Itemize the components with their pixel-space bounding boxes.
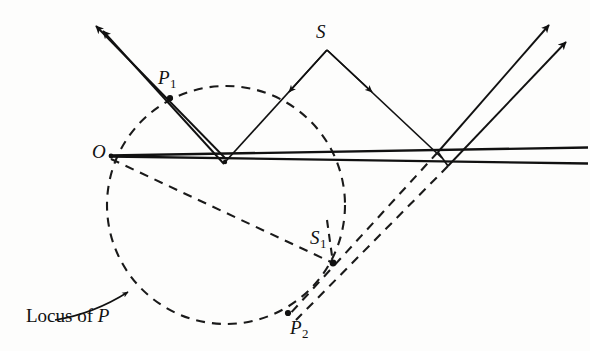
label-S: S [316, 22, 326, 41]
label-S1-main: S [310, 227, 320, 248]
virtual-ray-O-to-S1 [111, 159, 333, 263]
film-lower-surface [110, 157, 588, 164]
label-locus-of-p: Locus of P [26, 306, 109, 325]
point-P1-dot [167, 95, 173, 101]
emergent-ray-upper-right-a [438, 25, 549, 152]
label-P1-subscript: 1 [170, 76, 176, 91]
film-upper-surface [110, 148, 588, 156]
label-O-main: O [92, 141, 106, 162]
label-S-main: S [316, 21, 326, 42]
internal-ray-segment [438, 152, 448, 166]
label-O: O [92, 142, 106, 161]
point-P2-dot [285, 310, 291, 316]
label-locus-point: P [98, 305, 110, 326]
label-P2-subscript: 2 [302, 326, 308, 341]
locus-circle [107, 86, 345, 324]
label-P1: P1 [158, 68, 177, 91]
diagram-canvas [0, 0, 590, 351]
label-P2: P2 [290, 318, 309, 341]
label-S1: S1 [310, 228, 326, 251]
label-locus-prefix: Locus of [26, 305, 98, 326]
incident-ray-left-arrowhead [289, 50, 327, 92]
point-reflection-left-dot [223, 160, 227, 164]
reflected-ray-upper-left-b [103, 31, 224, 164]
ray-diagram-figure: P1 S O S1 P2 Locus of P [0, 0, 590, 351]
point-O-dot [109, 154, 114, 159]
point-S1-dot [330, 260, 337, 267]
label-P2-main: P [290, 317, 302, 338]
incident-ray-right-arrowhead [327, 50, 372, 92]
label-P1-main: P [158, 67, 170, 88]
label-S1-subscript: 1 [320, 236, 326, 251]
